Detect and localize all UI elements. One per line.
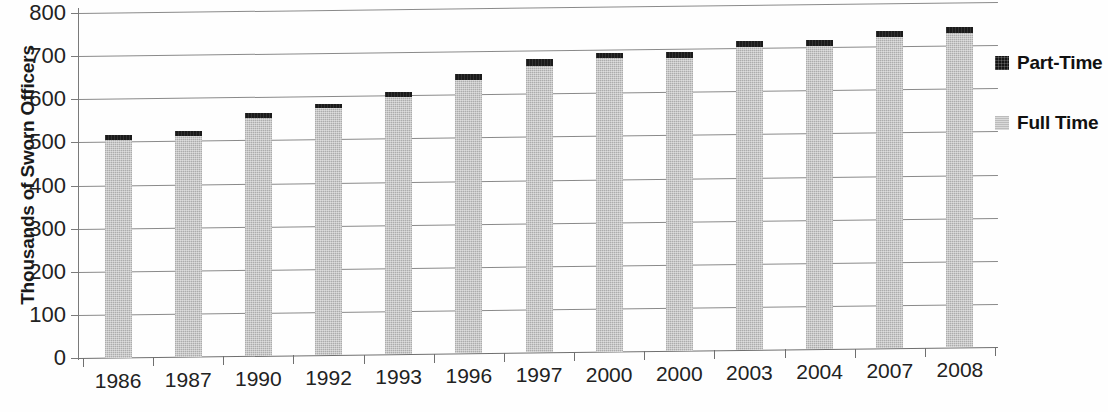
x-tick-mark: [925, 348, 926, 357]
bar-segment-full-time[interactable]: [105, 140, 132, 357]
x-tick-mark: [223, 356, 224, 365]
bar-group[interactable]: [455, 352, 482, 353]
x-tick-label: 1986: [83, 370, 153, 391]
bar-segment-full-time[interactable]: [385, 97, 412, 354]
y-tick-label: 700: [6, 45, 66, 67]
y-tick-mark: [71, 358, 79, 359]
bar-segment-full-time[interactable]: [806, 46, 833, 349]
x-tick-mark: [504, 353, 505, 362]
x-tick-mark: [83, 358, 84, 367]
bar-segment-part-time[interactable]: [105, 135, 132, 140]
y-tick-label: 300: [6, 218, 66, 240]
bar-group[interactable]: [245, 355, 272, 356]
bar-segment-full-time[interactable]: [596, 58, 623, 352]
x-tick-mark: [293, 355, 294, 364]
y-axis-line: [78, 8, 79, 360]
bar-group[interactable]: [385, 353, 412, 354]
x-tick-label: 2008: [925, 359, 995, 380]
bar-group[interactable]: [736, 349, 763, 350]
x-tick-mark: [785, 349, 786, 358]
y-tick-mark: [71, 13, 79, 14]
stacked-bar-chart: Thousands of Sworn Officers 010020030040…: [0, 0, 1108, 412]
bar-segment-full-time[interactable]: [666, 58, 693, 351]
x-axis-tick-labels: 1986198719901992199319961997200020002003…: [78, 368, 990, 398]
bar-segment-full-time[interactable]: [455, 80, 482, 353]
bar-segment-part-time[interactable]: [946, 27, 973, 33]
bar-group[interactable]: [526, 351, 553, 352]
x-tick-mark: [855, 349, 856, 358]
x-tick-mark: [434, 354, 435, 363]
bar-group[interactable]: [175, 356, 202, 357]
x-tick-label: 1992: [293, 367, 363, 388]
y-tick-label: 500: [6, 131, 66, 153]
y-tick-label: 400: [6, 175, 66, 197]
x-tick-label: 1990: [223, 368, 293, 389]
y-tick-label: 0: [6, 347, 66, 369]
bar-segment-full-time[interactable]: [876, 37, 903, 348]
y-tick-label: 600: [6, 88, 66, 110]
bar-group[interactable]: [806, 348, 833, 349]
legend-label: Full Time: [1017, 112, 1098, 134]
bar-segment-part-time[interactable]: [526, 59, 553, 66]
y-tick-label: 800: [6, 2, 66, 24]
y-tick-mark: [71, 142, 79, 143]
y-tick-mark: [71, 56, 79, 57]
bar-segment-part-time[interactable]: [245, 113, 272, 118]
x-tick-label: 2004: [785, 361, 855, 382]
x-tick-mark: [644, 351, 645, 360]
x-tick-mark: [364, 355, 365, 364]
legend-item[interactable]: Full Time: [995, 112, 1098, 134]
x-tick-label: 2000: [574, 364, 644, 385]
y-tick-mark: [71, 272, 79, 273]
y-tick-label: 100: [6, 304, 66, 326]
x-tick-mark: [714, 350, 715, 359]
bar-segment-part-time[interactable]: [736, 41, 763, 47]
bar-segment-part-time[interactable]: [876, 31, 903, 37]
y-tick-mark: [71, 315, 79, 316]
x-tick-label: 2007: [855, 360, 925, 381]
x-tick-label: 1996: [434, 365, 504, 386]
bar-group[interactable]: [315, 354, 342, 355]
bar-segment-part-time[interactable]: [385, 92, 412, 97]
plot-area: [78, 8, 990, 360]
bar-group[interactable]: [946, 346, 973, 347]
gridline: [78, 45, 998, 57]
x-tick-mark: [995, 347, 996, 356]
y-tick-mark: [71, 99, 79, 100]
x-tick-label: 2003: [714, 362, 784, 383]
x-tick-label: 1987: [153, 369, 223, 390]
y-axis-tick-labels: 0100200300400500600700800: [4, 0, 66, 412]
bar-segment-part-time[interactable]: [455, 74, 482, 80]
x-tick-mark: [574, 352, 575, 361]
bar-segment-full-time[interactable]: [315, 108, 342, 355]
legend-item[interactable]: Part-Time: [995, 52, 1103, 74]
bar-segment-part-time[interactable]: [315, 104, 342, 109]
bar-group[interactable]: [105, 357, 132, 358]
x-tick-label: 1993: [364, 366, 434, 387]
gridline: [78, 2, 998, 14]
bar-segment-part-time[interactable]: [596, 53, 623, 58]
bar-segment-part-time[interactable]: [806, 40, 833, 46]
bar-segment-part-time[interactable]: [175, 131, 202, 136]
x-tick-label: 1997: [504, 364, 574, 385]
x-tick-label: 2000: [644, 363, 714, 384]
bar-group[interactable]: [876, 347, 903, 348]
black-square-icon: [995, 56, 1009, 70]
gray-square-icon: [995, 116, 1009, 130]
x-tick-mark: [153, 357, 154, 366]
bar-segment-full-time[interactable]: [175, 136, 202, 357]
bar-segment-full-time[interactable]: [245, 118, 272, 356]
bar-segment-full-time[interactable]: [946, 33, 973, 348]
bar-group[interactable]: [666, 350, 693, 351]
y-tick-mark: [71, 229, 79, 230]
bar-segment-part-time[interactable]: [666, 52, 693, 58]
bar-group[interactable]: [596, 351, 623, 352]
legend-label: Part-Time: [1017, 52, 1103, 74]
y-tick-mark: [71, 186, 79, 187]
bar-segment-full-time[interactable]: [736, 47, 763, 350]
y-tick-label: 200: [6, 261, 66, 283]
bar-segment-full-time[interactable]: [526, 66, 553, 352]
